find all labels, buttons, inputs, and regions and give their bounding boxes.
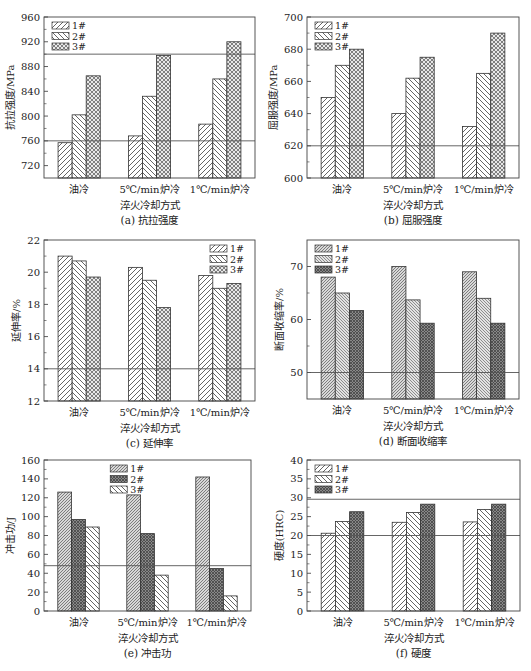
x-tick-label: 1℃/min炉冷	[190, 183, 250, 195]
bar-1-2	[196, 477, 210, 611]
x-tick-label: 油冷	[69, 183, 89, 195]
y-axis-label: 断面收缩率/%	[273, 288, 285, 351]
legend-label: 2#	[130, 474, 144, 485]
x-tick-label: 油冷	[333, 616, 353, 628]
y-tick-label: 920	[21, 36, 40, 47]
y-tick-label: 140	[21, 473, 40, 484]
x-axis-label: 淬火冷却方式	[383, 420, 444, 432]
legend-swatch	[110, 465, 127, 472]
bar-3-1	[421, 504, 435, 611]
y-tick-label: 620	[284, 140, 303, 151]
legend-swatch	[210, 256, 227, 263]
y-tick-label: 960	[21, 12, 40, 23]
bar-2-2	[477, 298, 491, 399]
y-tick-label: 40	[290, 455, 303, 466]
bar-1-0	[321, 277, 335, 399]
legend-label: 1#	[335, 243, 349, 254]
legend-label: 2#	[72, 31, 86, 42]
y-tick-label: 760	[21, 135, 40, 146]
y-tick-label: 20	[290, 530, 303, 541]
y-tick-label: 12	[27, 396, 40, 407]
y-axis-label: 硬度(HRC)	[273, 510, 285, 562]
bar-3-1	[154, 575, 168, 611]
bar-1-0	[58, 492, 72, 611]
bar-3-0	[349, 49, 363, 178]
bar-2-0	[72, 261, 86, 401]
caption: (f) 硬度	[396, 647, 432, 659]
legend-label: 1#	[335, 20, 349, 31]
bar-1-2	[199, 275, 213, 401]
legend-swatch	[315, 245, 332, 252]
y-tick-label: 20	[27, 267, 40, 278]
legend-label: 1#	[72, 20, 86, 31]
y-tick-label: 120	[21, 492, 40, 503]
y-axis-label: 延伸率/%	[10, 299, 22, 342]
legend-label: 2#	[335, 31, 349, 42]
y-tick-label: 0	[297, 606, 303, 617]
bar-2-1	[142, 280, 156, 401]
legend-label: 2#	[230, 254, 244, 265]
x-tick-label: 1℃/min炉冷	[454, 404, 514, 416]
figure: 720760800840880920960抗拉强度/MPa油冷5℃/min炉冷1…	[0, 0, 531, 671]
x-tick-label: 5℃/min炉冷	[383, 183, 443, 195]
x-tick-label: 1℃/min炉冷	[190, 406, 250, 418]
x-axis-label: 淬火冷却方式	[384, 632, 445, 644]
bar-2-2	[477, 73, 491, 178]
bar-2-2	[213, 288, 227, 401]
caption: (c) 延伸率	[126, 437, 173, 449]
y-tick-label: 700	[284, 12, 303, 23]
legend-label: 3#	[130, 484, 144, 495]
y-tick-label: 840	[21, 86, 40, 97]
bar-3-2	[491, 323, 505, 399]
y-tick-label: 60	[290, 314, 303, 325]
y-tick-label: 16	[27, 331, 40, 342]
y-tick-label: 0	[34, 606, 40, 617]
bar-2-1	[406, 512, 420, 611]
y-tick-label: 20	[27, 587, 40, 598]
y-tick-label: 70	[290, 261, 303, 272]
legend-swatch	[52, 43, 69, 50]
bar-3-2	[227, 42, 241, 178]
x-tick-label: 油冷	[332, 404, 352, 416]
legend-swatch	[52, 22, 69, 29]
y-tick-label: 14	[27, 363, 40, 374]
legend-swatch	[315, 43, 332, 50]
legend-swatch	[110, 486, 127, 493]
y-tick-label: 100	[21, 511, 40, 522]
y-tick-label: 160	[21, 455, 40, 466]
legend-label: 3#	[335, 484, 349, 495]
legend-label: 2#	[335, 254, 349, 265]
bar-2-0	[335, 522, 349, 611]
x-axis-label: 淬火冷却方式	[120, 199, 181, 211]
bar-1-0	[321, 533, 335, 611]
bar-1-0	[58, 256, 72, 401]
x-tick-label: 1℃/min炉冷	[186, 616, 246, 628]
x-tick-label: 油冷	[69, 406, 89, 418]
x-tick-label: 5℃/min炉冷	[383, 616, 443, 628]
x-tick-label: 5℃/min炉冷	[117, 616, 177, 628]
legend-label: 1#	[130, 463, 144, 474]
bar-2-0	[335, 293, 349, 399]
y-axis-label: 抗拉强度/MPa	[4, 65, 16, 131]
bar-2-2	[213, 79, 227, 178]
legend-swatch	[315, 22, 332, 29]
y-tick-label: 660	[284, 76, 303, 87]
legend-label: 3#	[335, 264, 349, 275]
legend-swatch	[315, 266, 332, 273]
legend-label: 3#	[72, 41, 86, 52]
bar-3-2	[223, 596, 237, 611]
bar-2-1	[406, 300, 420, 399]
legend-swatch	[210, 266, 227, 273]
bar-1-0	[58, 143, 72, 178]
bar-3-1	[420, 323, 434, 399]
y-tick-label: 60	[27, 549, 40, 560]
y-tick-label: 35	[290, 473, 303, 484]
bar-2-0	[72, 115, 86, 178]
caption: (e) 冲击功	[124, 647, 172, 659]
legend-label: 1#	[335, 463, 349, 474]
chart-panel-d: 506070断面收缩率/%油冷5℃/min炉冷1℃/min炉冷淬火冷却方式(d)…	[273, 240, 519, 447]
y-tick-label: 880	[21, 61, 40, 72]
bar-2-1	[406, 78, 420, 178]
y-tick-label: 40	[27, 568, 40, 579]
bar-1-2	[462, 272, 476, 399]
